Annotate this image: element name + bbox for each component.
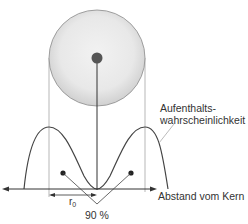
radius-label: r0 — [69, 196, 76, 211]
nucleus-dot — [92, 53, 103, 64]
probability-curve — [24, 127, 168, 189]
axis-arrow-left-icon — [2, 187, 9, 192]
radius-arrow-head-right-icon — [91, 193, 97, 197]
probability-label-line1: Aufenthalts- — [160, 102, 245, 114]
axis-arrow-right-icon — [150, 187, 157, 192]
probability-label: Aufenthalts- wahrscheinlichkeit — [160, 102, 245, 126]
probability-label-line2: wahrscheinlichkeit — [160, 114, 245, 126]
radius-arrow-head-left-icon — [49, 193, 55, 197]
percentage-label: 90 % — [85, 209, 109, 221]
axis-label: Abstand vom Kern — [158, 190, 244, 202]
probability-leader-line — [159, 124, 174, 143]
radius-subscript: 0 — [72, 201, 76, 208]
